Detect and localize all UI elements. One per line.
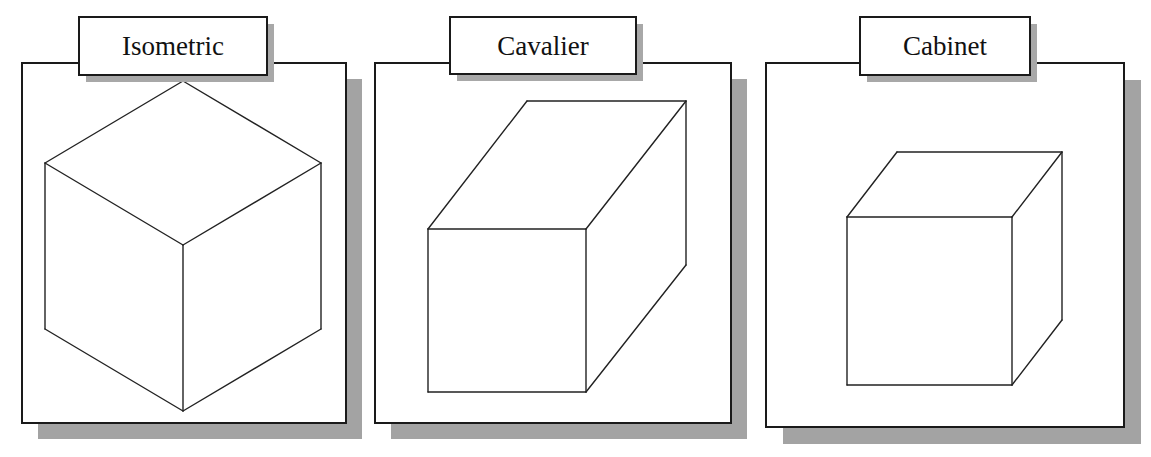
- panel-frame: [22, 63, 346, 423]
- panel-cabinet: Cabinet: [766, 17, 1141, 444]
- panel-cavalier: Cavalier: [375, 17, 747, 439]
- panel-isometric: Isometric: [22, 17, 362, 439]
- panel-label-cabinet: Cabinet: [903, 31, 987, 61]
- panel-label-isometric: Isometric: [122, 31, 224, 61]
- panel-label-cavalier: Cavalier: [497, 31, 588, 61]
- projection-figure: Isometric Cavalier Cabinet: [0, 0, 1151, 457]
- panel-frame: [766, 63, 1124, 427]
